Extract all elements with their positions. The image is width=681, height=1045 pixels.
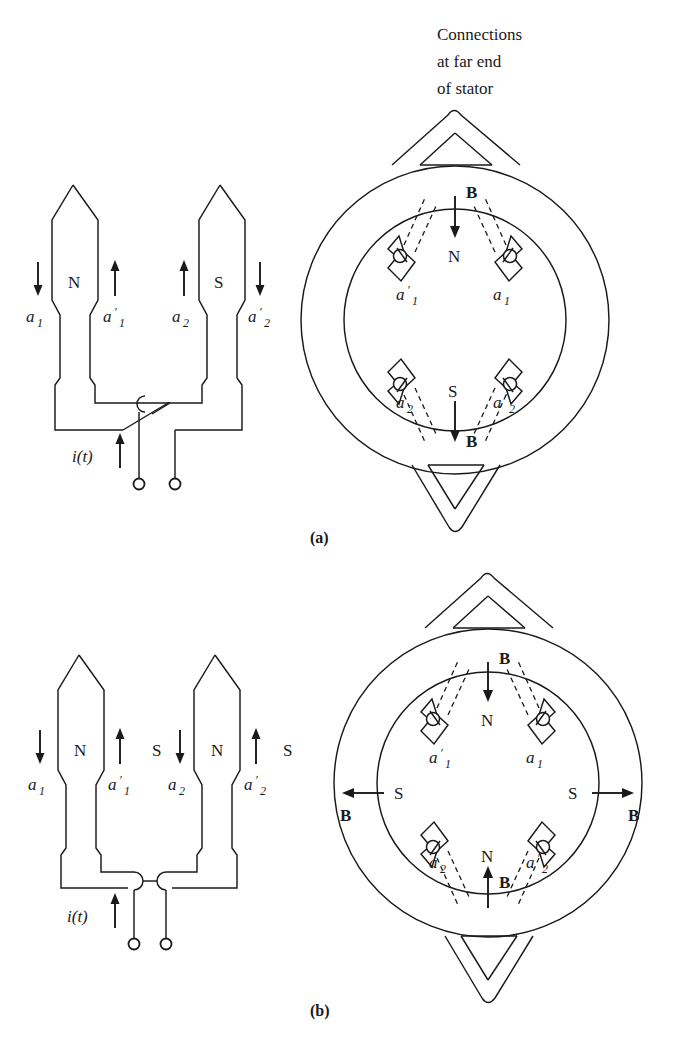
label-a1prime-base: a <box>103 307 112 326</box>
field-arrow-right-b: S B <box>568 784 639 825</box>
label-a2prime-group-panel-b: a ′ 2 <box>244 728 266 798</box>
caption-b: (b) <box>310 1002 330 1020</box>
slot-label-a2prime-sub-b: 2 <box>542 862 548 876</box>
pole-label-N2-panel-b: N <box>211 741 223 760</box>
wire-crossing-diagonal-2 <box>152 403 170 414</box>
slot-label-a2prime-base: a <box>493 393 502 412</box>
machine-winding-figure: Connections at far end of stator i(t) <box>0 0 681 1045</box>
slot-label-a1prime-prime-b: ′ <box>440 746 443 760</box>
slot-label-a1prime-panel-a: a ′ 1 <box>396 283 418 308</box>
field-pole-S-right-b: S <box>568 784 577 803</box>
label-a1-sub: 1 <box>37 316 43 330</box>
label-a1prime-prime-b: ′ <box>119 773 122 787</box>
current-label-b: i(t) <box>67 907 88 926</box>
slot-label-a1prime-prime: ′ <box>407 283 410 297</box>
slot-label-a1-sub-b: 1 <box>537 757 543 771</box>
label-a1-group-panel-b: a 1 <box>28 730 45 798</box>
coil-2-right-side <box>175 185 245 430</box>
field-arrow-top-b: B N <box>481 649 510 730</box>
wire-crossing-hop <box>137 396 145 412</box>
field-arrow-bottom-b: N B <box>481 847 510 908</box>
label-a1prime-prime: ′ <box>114 305 117 319</box>
end-connection-top-b <box>425 574 553 629</box>
label-a1prime-group-panel-b: a ′ 1 <box>108 728 130 798</box>
pole-label-S-panel-a: S <box>214 273 223 292</box>
label-a2prime-prime-b: ′ <box>255 773 258 787</box>
end-connection-top-a <box>392 111 520 166</box>
slot-label-a1prime-sub-b: 1 <box>445 757 451 771</box>
coil-1-left-side-b <box>58 655 128 888</box>
pole-label-N1-panel-b: N <box>74 741 86 760</box>
coil-2-left-side <box>168 185 220 403</box>
field-label-B-top-a: B <box>466 183 477 202</box>
wire-hop-right-b <box>157 872 166 890</box>
field-label-B-right-b: B <box>628 806 639 825</box>
label-a2-sub: 2 <box>183 316 189 330</box>
figure-root: Connections at far end of stator i(t) <box>0 0 681 1045</box>
label-a2-base: a <box>172 307 181 326</box>
pole-label-S1-panel-b: S <box>152 741 161 760</box>
slot-top-right-a <box>473 198 522 281</box>
slot-label-a2-panel-b: a 2 <box>429 853 446 876</box>
terminal-right <box>170 479 181 490</box>
slot-label-a1-panel-b: a 1 <box>526 748 543 771</box>
field-label-B-left-b: B <box>340 806 351 825</box>
note-line-2: at far end <box>437 52 502 71</box>
slot-label-a2prime-panel-b: a ′ 2 <box>526 851 548 876</box>
label-a2prime-group-panel-a: a ′ 2 <box>248 262 270 330</box>
field-arrow-bottom-a: S B <box>448 382 477 451</box>
slot-label-a1prime-base-b: a <box>429 748 438 767</box>
end-connection-bottom-a <box>412 465 500 532</box>
label-a2-group-panel-a: a 2 <box>172 260 189 330</box>
field-pole-S-left-b: S <box>394 784 403 803</box>
field-label-B-bottom-b: B <box>499 873 510 892</box>
slot-label-a2prime-base-b: a <box>526 853 535 872</box>
slot-label-a1-base: a <box>493 285 502 304</box>
label-a2-group-panel-b: a 2 <box>168 730 185 798</box>
panel-b-coil-diagram: i(t) a 1 N a ′ 1 S a 2 N <box>28 655 292 950</box>
slot-label-a2prime-panel-a: a ′ 2 <box>493 391 515 416</box>
panel-a-coil-diagram: i(t) a 1 N a ′ 1 a 2 S <box>26 185 270 490</box>
terminal-left <box>134 479 145 490</box>
connections-note: Connections at far end of stator <box>437 25 522 98</box>
field-arrow-left-b: S B <box>340 784 403 825</box>
slot-label-a2-base-b: a <box>429 853 438 872</box>
label-a1prime-group-panel-a: a ′ 1 <box>103 260 125 330</box>
current-label-a: i(t) <box>72 447 93 466</box>
slot-label-a1-sub: 1 <box>504 294 510 308</box>
slot-label-a2prime-prime-b: ′ <box>537 851 540 865</box>
label-a1prime-sub-b: 1 <box>124 784 130 798</box>
coil-1-left-side <box>52 185 123 430</box>
slot-label-a2prime-prime: ′ <box>504 391 507 405</box>
slot-label-a1prime-panel-b: a ′ 1 <box>429 746 451 771</box>
label-a1prime-sub: 1 <box>119 316 125 330</box>
wire-crossing-diagonal-1 <box>123 403 168 430</box>
coil-1-right-side <box>73 185 170 403</box>
label-a1-sub-b: 1 <box>39 784 45 798</box>
field-label-B-bottom-a: B <box>466 432 477 451</box>
label-a2prime-prime: ′ <box>259 305 262 319</box>
field-pole-N-bottom-b: N <box>481 847 493 866</box>
label-a1-base-b: a <box>28 775 37 794</box>
slot-label-a2-sub-b: 2 <box>440 862 446 876</box>
panel-a-stator-diagram: a ′ 1 a 1 a 2 a ′ 2 B N S B <box>301 111 609 532</box>
slot-label-a2prime-sub: 2 <box>509 402 515 416</box>
current-arrow-a <box>116 433 125 468</box>
slot-label-a2-base: a <box>396 393 405 412</box>
slot-label-a1-panel-a: a 1 <box>493 285 510 308</box>
field-pole-N-top-b: N <box>481 711 493 730</box>
coil-1-right-side-b <box>79 655 134 872</box>
coil-2-right-side-b <box>172 655 240 888</box>
label-a1-group-panel-a: a 1 <box>26 262 43 330</box>
label-a2prime-base: a <box>248 307 257 326</box>
slot-label-a1-base-b: a <box>526 748 535 767</box>
field-pole-S-bottom-a: S <box>448 382 457 401</box>
field-pole-N-top-a: N <box>448 247 460 266</box>
field-label-B-top-b: B <box>499 649 510 668</box>
current-arrow-b <box>111 893 120 928</box>
caption-a: (a) <box>310 529 329 547</box>
slot-top-left-b <box>421 661 470 744</box>
end-connection-bottom-b <box>445 936 533 1003</box>
pole-label-N-panel-a: N <box>68 273 80 292</box>
slot-label-a1prime-sub: 1 <box>412 294 418 308</box>
